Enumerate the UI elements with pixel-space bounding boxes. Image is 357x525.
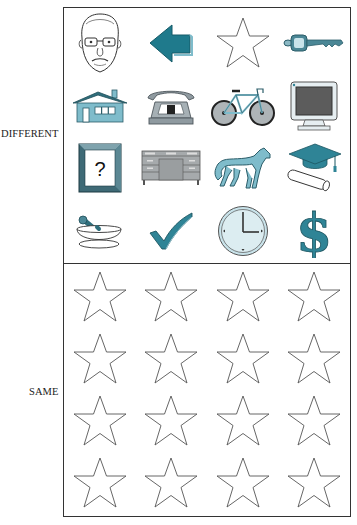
- dollar-icon: $: [294, 204, 334, 258]
- house-icon: [72, 88, 128, 124]
- same-panel: [64, 266, 350, 514]
- different-label: DIFFERENT: [1, 128, 59, 139]
- same-cell: [64, 266, 136, 328]
- monitor-icon: [289, 80, 339, 132]
- same-cell: [207, 266, 279, 328]
- comparison-frame: ?: [63, 7, 351, 517]
- different-cell: [207, 75, 279, 138]
- same-cell: [279, 266, 351, 328]
- mortar-pestle-icon: [75, 213, 125, 249]
- same-cell: [64, 390, 136, 452]
- star-icon: [72, 270, 128, 324]
- different-cell: [279, 12, 351, 75]
- star-icon: [72, 456, 128, 510]
- star-icon: [143, 394, 199, 448]
- different-cell: [64, 12, 136, 75]
- different-cell: [207, 12, 279, 75]
- star-icon: [215, 456, 271, 510]
- svg-text:$: $: [296, 204, 332, 258]
- star-icon: [215, 332, 271, 386]
- same-cell: [279, 452, 351, 514]
- horse-icon: [212, 146, 274, 190]
- same-label: SAME: [29, 386, 59, 397]
- star-icon: [143, 270, 199, 324]
- star-icon: [286, 270, 342, 324]
- bicycle-icon: [210, 85, 276, 127]
- different-panel: ?: [64, 12, 350, 262]
- same-cell: [64, 452, 136, 514]
- star-icon: [143, 332, 199, 386]
- same-cell: [136, 328, 208, 390]
- panel-divider: [64, 263, 350, 264]
- same-cell: [207, 452, 279, 514]
- star-icon: [286, 394, 342, 448]
- star-icon: [215, 270, 271, 324]
- different-cell: $: [279, 200, 351, 263]
- telephone-icon: [145, 86, 197, 126]
- different-cell: ?: [64, 137, 136, 200]
- different-cell: [279, 137, 351, 200]
- different-cell: [279, 75, 351, 138]
- star-icon: [215, 394, 271, 448]
- graduation-cap-icon: [285, 142, 343, 194]
- same-cell: [279, 390, 351, 452]
- different-cell: [64, 200, 136, 263]
- key-icon: [283, 31, 345, 55]
- desk-icon: [141, 150, 201, 186]
- different-cell: [207, 200, 279, 263]
- left-arrow-icon: [148, 22, 194, 64]
- different-cell: [64, 75, 136, 138]
- face-icon: [74, 12, 126, 74]
- different-cell: [136, 200, 208, 263]
- same-cell: [207, 390, 279, 452]
- same-cell: [64, 328, 136, 390]
- svg-text:?: ?: [94, 158, 105, 180]
- star-icon: [215, 16, 271, 70]
- star-icon: [143, 456, 199, 510]
- same-cell: [136, 266, 208, 328]
- clock-icon: [217, 205, 269, 257]
- star-icon: [286, 456, 342, 510]
- same-cell: [279, 328, 351, 390]
- star-icon: [72, 394, 128, 448]
- same-cell: [136, 452, 208, 514]
- question-frame-icon: ?: [78, 143, 122, 193]
- same-cell: [136, 390, 208, 452]
- different-cell: [136, 75, 208, 138]
- different-cell: [136, 12, 208, 75]
- different-cell: [207, 137, 279, 200]
- star-icon: [72, 332, 128, 386]
- checkmark-icon: [148, 211, 194, 251]
- different-cell: [136, 137, 208, 200]
- star-icon: [286, 332, 342, 386]
- same-cell: [207, 328, 279, 390]
